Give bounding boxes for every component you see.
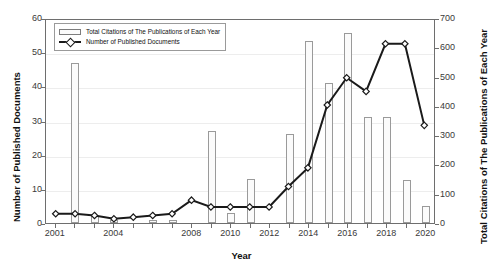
line-marker [402, 41, 408, 47]
x-axis-tick [133, 224, 134, 228]
x-axis-title: Year [0, 250, 483, 261]
line-marker [53, 211, 59, 217]
right-axis-tick [435, 224, 439, 225]
right-axis-title: Total Citations of The Publications of E… [478, 29, 489, 244]
right-axis-tick-label: 0 [440, 218, 470, 228]
right-axis-tick [435, 136, 439, 137]
right-axis-tick-label: 100 [440, 189, 470, 199]
x-axis-tick [367, 224, 368, 228]
line-marker [208, 204, 214, 210]
line-marker [421, 122, 427, 128]
x-axis-tick-label: 2020 [415, 228, 435, 238]
left-axis-title: Number of Published Documents [11, 72, 22, 222]
line-swatch-icon [59, 39, 81, 45]
right-axis-tick-label: 600 [440, 42, 470, 52]
x-axis-tick-label: 2001 [45, 228, 65, 238]
line-marker [150, 212, 156, 218]
right-axis-tick-label: 700 [440, 13, 470, 23]
right-axis-tick-label: 300 [440, 130, 470, 140]
x-axis-tick [152, 224, 153, 228]
right-axis-tick [435, 195, 439, 196]
x-axis-tick [74, 224, 75, 228]
legend: Total Citations of The Publications of E… [54, 23, 226, 51]
left-axis-tick-label: 20 [12, 150, 42, 160]
left-axis-tick-label: 0 [12, 218, 42, 228]
right-axis-tick-label: 500 [440, 72, 470, 82]
right-axis-tick-label: 200 [440, 159, 470, 169]
right-axis-tick [435, 165, 439, 166]
legend-item-documents: Number of Published Documents [59, 37, 220, 47]
left-axis-tick-label: 30 [12, 116, 42, 126]
x-axis-tick [328, 224, 329, 228]
x-axis-tick-label: 2016 [337, 228, 357, 238]
x-axis-tick [406, 224, 407, 228]
line-marker [227, 204, 233, 210]
left-axis-tick-label: 10 [12, 184, 42, 194]
left-axis-tick-label: 40 [12, 81, 42, 91]
line-path [56, 44, 425, 219]
x-axis-tick-label: 2008 [181, 228, 201, 238]
x-axis-tick-label: 2004 [103, 228, 123, 238]
x-axis-tick [172, 224, 173, 228]
line-marker [111, 216, 117, 222]
x-axis-tick [289, 224, 290, 228]
legend-item-citations: Total Citations of The Publications of E… [59, 27, 220, 37]
left-axis-tick [41, 224, 45, 225]
line-marker [130, 214, 136, 220]
x-axis-tick [211, 224, 212, 228]
right-axis-tick [435, 48, 439, 49]
line-marker [91, 212, 97, 218]
left-axis-tick-label: 60 [12, 13, 42, 23]
line-marker [247, 204, 253, 210]
x-axis-tick [94, 224, 95, 228]
right-axis-tick [435, 107, 439, 108]
left-axis-tick-label: 50 [12, 47, 42, 57]
legend-label-documents: Number of Published Documents [86, 37, 180, 47]
legend-label-citations: Total Citations of The Publications of E… [86, 27, 220, 37]
right-axis-tick [435, 78, 439, 79]
right-axis-tick-label: 400 [440, 101, 470, 111]
x-axis-tick-label: 2018 [376, 228, 396, 238]
right-axis-tick [435, 19, 439, 20]
x-axis-tick-label: 2010 [220, 228, 240, 238]
x-axis-tick-label: 2012 [259, 228, 279, 238]
bar-swatch-icon [59, 29, 81, 35]
x-axis-tick-label: 2014 [298, 228, 318, 238]
line-marker [382, 41, 388, 47]
x-axis-tick [250, 224, 251, 228]
line-marker [72, 211, 78, 217]
